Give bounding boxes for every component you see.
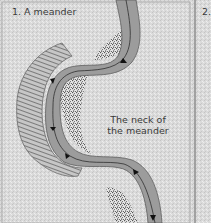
panel-2-title: 2. [202,6,211,17]
meander-illustration [0,0,211,223]
neck-label-line-1: The neck of [106,114,170,125]
neck-label: The neck of the meander [106,114,170,136]
panel-1-title: 1. A meander [12,6,76,17]
neck-label-line-2: the meander [106,125,170,136]
meander-diagram: 1. A meander 2. The neck of the meander [0,0,211,223]
